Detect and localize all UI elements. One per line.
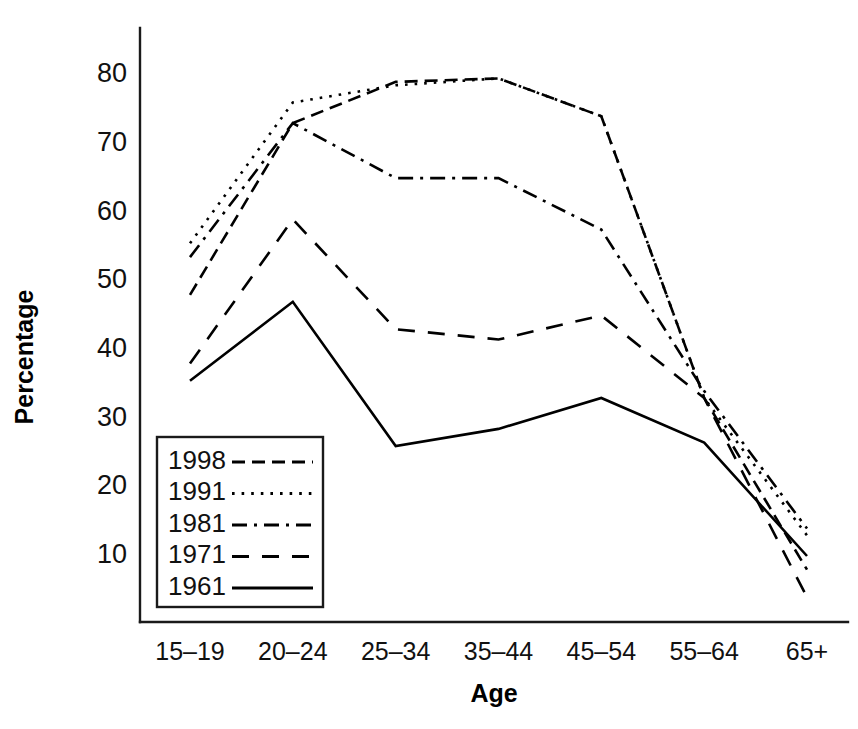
y-axis-tick-label: 40: [97, 333, 127, 363]
x-axis-tick-label: 45–54: [567, 637, 637, 665]
x-axis-tick-label: 25–34: [361, 637, 431, 665]
legend-label-1961: 1961: [168, 571, 226, 601]
x-axis-title: Age: [470, 679, 517, 707]
chart-legend: 19981991198119711961: [157, 437, 323, 607]
y-axis-tick-label: 60: [97, 196, 127, 226]
x-axis-tick-label: 65+: [786, 637, 828, 665]
y-axis-title: Percentage: [10, 290, 38, 425]
y-axis-tick-label: 70: [97, 127, 127, 157]
y-axis-tick-label: 80: [97, 58, 127, 88]
x-axis-tick-label: 55–64: [669, 637, 739, 665]
x-axis-tick-label: 15–19: [155, 637, 225, 665]
y-axis-tick-label: 20: [97, 470, 127, 500]
legend-label-1998: 1998: [168, 445, 226, 475]
legend-label-1971: 1971: [168, 539, 226, 569]
y-axis-tick-label: 30: [97, 402, 127, 432]
y-axis-tick-labels: 1020304050607080: [97, 58, 127, 569]
y-axis-tick-label: 10: [97, 539, 127, 569]
legend-label-1981: 1981: [168, 508, 226, 538]
x-axis-tick-label: 20–24: [258, 637, 328, 665]
y-axis-tick-label: 50: [97, 264, 127, 294]
x-axis-tick-labels: 15–1920–2425–3435–4445–5455–6465+: [155, 637, 828, 665]
line-chart-figure: 1020304050607080 15–1920–2425–3435–4445–…: [0, 0, 858, 729]
x-axis-tick-label: 35–44: [464, 637, 534, 665]
chart-canvas: 1020304050607080 15–1920–2425–3435–4445–…: [0, 0, 858, 729]
legend-label-1991: 1991: [168, 476, 226, 506]
